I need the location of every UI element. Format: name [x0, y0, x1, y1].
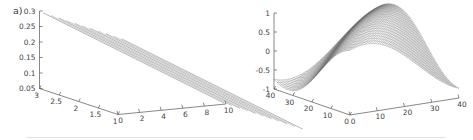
z-tick-label: 0.3 — [24, 7, 36, 16]
y-tick-mark — [376, 107, 377, 111]
y-tick-mark — [404, 103, 405, 107]
y-tick-label: 0 — [351, 117, 356, 126]
mesh-line — [67, 21, 248, 111]
y-tick-mark — [431, 99, 432, 103]
figure-container: a) 0.30.250.20.150.10.0532.521.510246810… — [0, 0, 473, 140]
y-tick-mark — [203, 103, 204, 107]
panel-a-plot: 0.30.250.20.150.10.0532.521.510246810 — [0, 0, 237, 140]
x-tick-label: 1.5 — [89, 110, 101, 119]
caption-separator-rule — [26, 137, 446, 138]
y-tick-mark — [182, 105, 183, 109]
x-tick-label: 2.5 — [50, 97, 62, 106]
y-tick-label: 6 — [183, 110, 188, 119]
x-tick-mark — [59, 92, 61, 95]
y-tick-label: 10 — [376, 112, 386, 121]
x-tick-label: 2 — [73, 104, 78, 113]
x-tick-label: 10 — [323, 111, 333, 120]
x-tick-label: 20 — [304, 104, 314, 113]
x-tick-label: 40 — [266, 91, 276, 100]
x-tick-mark — [331, 106, 333, 109]
z-tick-label: 0.25 — [19, 22, 36, 31]
y-tick-label: 30 — [430, 104, 440, 113]
z-tick-label: 0.5 — [258, 28, 270, 37]
mesh-line — [75, 23, 256, 113]
mesh-line — [43, 13, 224, 103]
x-tick-mark — [293, 93, 295, 96]
mesh-line — [280, 4, 389, 85]
panel-a: a) 0.30.250.20.150.10.0532.521.510246810 — [0, 0, 237, 140]
x-tick-label: 3 — [34, 91, 39, 100]
mesh-line — [59, 18, 240, 108]
x-tick-mark — [312, 99, 314, 102]
panel-b-plot: 10.50-0.5-1403020100010203040 — [237, 0, 473, 140]
x-tick-label: 0 — [344, 117, 349, 126]
y-tick-label: 8 — [205, 108, 210, 117]
z-tick-label: 0 — [265, 47, 270, 56]
y-tick-mark — [139, 109, 140, 113]
z-tick-label: 0.1 — [24, 69, 36, 78]
mesh-line — [51, 15, 232, 105]
y-tick-mark — [458, 95, 459, 99]
y-tick-mark — [225, 101, 226, 105]
panel-a-axes: 0.30.250.20.150.10.0532.521.510246810 — [19, 7, 233, 126]
y-tick-label: 10 — [224, 106, 234, 115]
x-tick-label: 1 — [113, 117, 118, 126]
z-tick-label: 1 — [265, 9, 270, 18]
z-tick-label: 0.2 — [24, 38, 36, 47]
y-tick-mark — [160, 107, 161, 111]
y-tick-label: 0 — [118, 116, 123, 125]
y-tick-label: 20 — [403, 108, 413, 117]
y-tick-label: 2 — [140, 114, 145, 123]
x-tick-label: 30 — [285, 98, 295, 107]
x-tick-mark — [98, 105, 100, 108]
mesh-line — [298, 9, 407, 90]
z-tick-label: -0.5 — [256, 66, 271, 75]
y-tick-label: 4 — [161, 112, 166, 121]
y-tick-label: 40 — [457, 100, 467, 109]
y-axis-line — [118, 104, 226, 115]
panel-b-mesh — [274, 4, 459, 91]
z-tick-label: 0.15 — [19, 53, 36, 62]
x-tick-mark — [79, 99, 81, 102]
panel-b: b) 10.50-0.5-1403020100010203040 — [237, 0, 473, 140]
